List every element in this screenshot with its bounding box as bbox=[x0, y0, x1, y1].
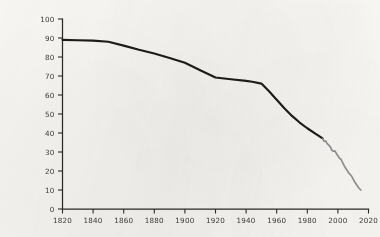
x-tick-label: 1880 bbox=[145, 216, 164, 225]
y-tick-label: 0 bbox=[50, 205, 55, 214]
x-tick-label: 1840 bbox=[84, 216, 103, 225]
y-tick-label: 70 bbox=[45, 72, 55, 81]
chart-canvas: 0102030405060708090100 18201840186018801… bbox=[0, 0, 380, 237]
chart-axes bbox=[63, 19, 369, 209]
y-tick-label: 20 bbox=[45, 167, 55, 176]
x-tick-label: 1820 bbox=[53, 216, 72, 225]
x-tick-label: 1960 bbox=[267, 216, 286, 225]
series-line-recent-measured bbox=[323, 139, 361, 190]
y-tick-label: 40 bbox=[45, 129, 55, 138]
y-axis-ticks bbox=[58, 19, 63, 209]
x-tick-label: 2000 bbox=[328, 216, 347, 225]
x-tick-label: 1940 bbox=[237, 216, 256, 225]
y-tick-label: 80 bbox=[45, 53, 55, 62]
x-axis-ticks bbox=[63, 209, 369, 214]
y-tick-label: 100 bbox=[40, 15, 55, 24]
y-tick-label: 50 bbox=[45, 110, 55, 119]
y-tick-label: 30 bbox=[45, 148, 55, 157]
x-tick-label: 1920 bbox=[206, 216, 225, 225]
y-tick-label: 90 bbox=[45, 34, 55, 43]
x-tick-label: 1980 bbox=[298, 216, 317, 225]
poverty-chart-figure: 0102030405060708090100 18201840186018801… bbox=[0, 0, 380, 237]
x-tick-label: 1860 bbox=[114, 216, 133, 225]
series-line-historic-estimate bbox=[63, 40, 323, 138]
x-tick-label: 1900 bbox=[175, 216, 194, 225]
y-tick-label: 10 bbox=[45, 186, 55, 195]
x-tick-label: 2020 bbox=[359, 216, 378, 225]
x-axis-tick-labels: 1820184018601880190019201940196019802000… bbox=[53, 216, 378, 225]
y-axis-tick-labels: 0102030405060708090100 bbox=[40, 15, 55, 214]
y-tick-label: 60 bbox=[45, 91, 55, 100]
